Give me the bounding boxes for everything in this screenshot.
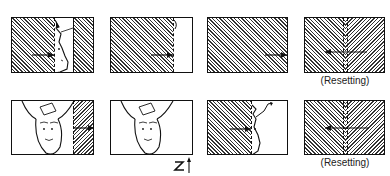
- frame-r2-4: [304, 100, 385, 155]
- arrow-right-icon: [208, 18, 288, 73]
- frame-r1-4: [304, 17, 385, 73]
- arrow-left-icon: [305, 18, 385, 73]
- frame-r2-1: [11, 100, 94, 155]
- arrow-right-icon: [111, 18, 193, 73]
- face-profile-icon: [208, 101, 288, 155]
- face-profile-icon: [12, 18, 94, 73]
- resetting-label: (Resetting): [300, 157, 390, 168]
- frame-r2-3: [207, 100, 288, 155]
- arrow-left-icon: [305, 101, 385, 155]
- inverted-face-icon: [12, 101, 94, 155]
- frame-r2-2: [110, 100, 193, 155]
- resetting-label: (Resetting): [300, 75, 390, 86]
- frame-r1-1: [11, 17, 94, 73]
- frame-r1-3: [207, 17, 288, 73]
- inverted-face-icon: [111, 101, 193, 155]
- z-arrow-icon: [173, 156, 193, 176]
- frame-r1-2: [110, 17, 193, 73]
